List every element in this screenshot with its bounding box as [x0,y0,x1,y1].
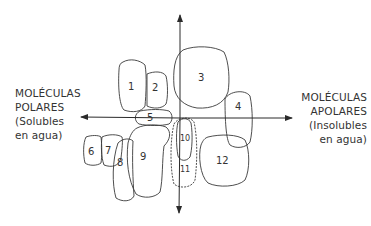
region-9-label: 9 [140,151,146,162]
region-11-label: 11 [180,165,190,174]
left-label-line-1: MOLÉCULAS [15,86,81,100]
horizontal-axis-left-arrow [81,117,180,118]
region-7-label: 7 [105,145,111,156]
region-10-label: 10 [180,134,190,143]
left-label-line-4: en agua) [15,128,81,142]
region-6-label: 6 [88,146,94,157]
shapes-group [84,47,253,201]
region-1-label: 1 [128,81,134,92]
region-4-label: 4 [235,101,241,112]
region-8-outline [113,139,134,201]
polar-molecules-label: MOLÉCULAS POLARES (Solubles en agua) [15,86,81,142]
region-2-label: 2 [152,82,158,93]
region-8-label: 8 [117,157,123,168]
right-label-line-3: (Insolubles [301,118,367,132]
region-5-label: 5 [147,112,153,123]
right-label-line-2: APOLARES [301,104,367,118]
right-label-line-1: MOLÉCULAS [301,90,367,104]
region-11-outline [171,118,197,187]
axes-group [81,15,292,213]
region-numbers: 1 2 3 4 5 6 7 8 9 10 11 12 [88,72,241,174]
region-3-label: 3 [198,72,204,83]
region-12-label: 12 [216,155,229,166]
right-label-line-4: en agua) [301,132,367,146]
left-label-line-2: POLARES [15,100,81,114]
apolar-molecules-label: MOLÉCULAS APOLARES (Insolubles en agua) [301,90,367,146]
left-label-line-3: (Solubles [15,114,81,128]
